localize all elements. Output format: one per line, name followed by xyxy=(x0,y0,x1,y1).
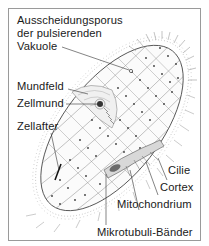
cytostome xyxy=(97,101,103,107)
label-cilium: Cilie xyxy=(168,164,190,177)
label-cytostome: Zellmund xyxy=(17,97,64,110)
label-mitochondrion: Mitochondrium xyxy=(117,198,192,211)
label-microtubule-bands: Mikrotubuli-Bänder xyxy=(97,226,193,239)
label-cytoproct: Zellafter xyxy=(17,120,58,133)
label-excretory-pore-line2: der pulsierenden xyxy=(17,27,102,40)
label-oral-groove: Mundfeld xyxy=(17,80,64,93)
label-excretory-pore-line1: Ausscheidungsporus xyxy=(17,14,123,27)
excretory-pore xyxy=(129,69,132,72)
label-cortex: Cortex xyxy=(160,181,194,194)
label-excretory-pore-line3: Vakuole xyxy=(17,40,57,53)
